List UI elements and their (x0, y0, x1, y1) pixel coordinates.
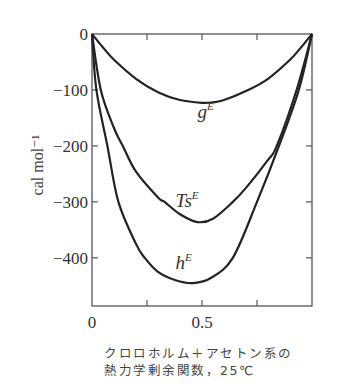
x-tick-label: 0.5 (191, 313, 212, 332)
excess-functions-chart: 00.50−100−200−300−400 cal mol⁻¹ gETsEhE (0, 0, 338, 392)
curve-label-h-e: hE (176, 251, 193, 273)
axis-ticks (92, 34, 312, 306)
series-curves (92, 34, 312, 283)
y-axis-label: cal mol⁻¹ (29, 134, 46, 195)
curve-labels: gETsEhE (176, 100, 215, 273)
y-tick-label: −400 (53, 249, 88, 268)
x-tick-label: 0 (88, 313, 97, 332)
y-tick-label: 0 (80, 25, 89, 44)
plot-border (92, 34, 312, 306)
curve-TsE (92, 34, 312, 222)
plot-frame (92, 34, 312, 306)
curve-hE (92, 34, 312, 283)
curve-label-ts-e: TsE (176, 189, 199, 211)
y-tick-label: −100 (53, 81, 88, 100)
axis-tick-labels: 00.50−100−200−300−400 (53, 25, 213, 332)
curve-label-g-e: gE (198, 100, 215, 122)
y-tick-label: −200 (53, 137, 88, 156)
caption-line-1: クロロホルム＋アセトン系の (104, 345, 293, 362)
y-tick-label: −300 (53, 193, 88, 212)
curve-gE (92, 34, 312, 103)
caption-line-2: 熱力学剰余関数，25℃ (104, 362, 293, 379)
figure-caption: クロロホルム＋アセトン系の 熱力学剰余関数，25℃ (104, 345, 293, 379)
